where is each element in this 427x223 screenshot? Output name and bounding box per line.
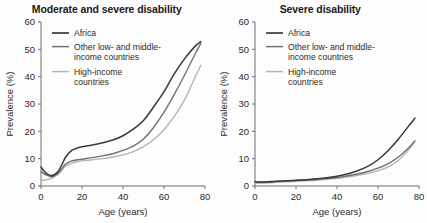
x-tick-label: 20 (290, 191, 301, 202)
x-tick-label: 0 (252, 191, 257, 202)
x-axis-label: Age (years) (98, 206, 147, 217)
x-tick-label: 80 (200, 191, 211, 202)
y-tick-label: 60 (24, 16, 35, 27)
y-tick-label: 60 (238, 16, 249, 27)
legend-label-africa: Africa (288, 28, 310, 38)
legend-label-high_income-line2: countries (288, 77, 323, 87)
y-tick-label: 30 (238, 98, 249, 109)
legend-label-high_income: High-income (288, 67, 336, 77)
legend-label-high_income-line2: countries (74, 77, 109, 87)
x-tick-label: 80 (413, 191, 424, 202)
x-tick-label: 20 (77, 191, 88, 202)
x-tick-label: 0 (38, 191, 43, 202)
series-line-other_lmic (41, 43, 201, 176)
y-tick-label: 0 (30, 180, 35, 191)
legend-label-other_lmic-line2: income countries (74, 52, 139, 62)
legend-label-other_lmic: Other low- and middle- (74, 42, 161, 52)
chart-svg-moderate-and-severe: 0102030405060020406080Age (years)Prevale… (0, 0, 214, 223)
chart-svg-severe: 0102030405060020406080Age (years)Prevale… (214, 0, 427, 223)
x-tick-label: 40 (118, 191, 129, 202)
x-axis-label: Age (years) (312, 206, 361, 217)
y-tick-label: 30 (24, 98, 35, 109)
y-tick-label: 50 (238, 44, 249, 55)
y-tick-label: 40 (238, 71, 249, 82)
legend-label-other_lmic-line2: income countries (288, 52, 353, 62)
y-axis-label: Prevalence (%) (4, 72, 15, 137)
x-tick-label: 60 (159, 191, 170, 202)
chart-panel-moderate-and-severe: Moderate and severe disability 010203040… (0, 0, 214, 223)
y-tick-label: 50 (24, 44, 35, 55)
disability-prevalence-figure: Moderate and severe disability 010203040… (0, 0, 427, 223)
legend-label-other_lmic: Other low- and middle- (288, 42, 375, 52)
series-line-high_income (41, 65, 201, 180)
legend-label-high_income: High-income (74, 67, 122, 77)
x-tick-label: 40 (331, 191, 342, 202)
y-tick-label: 0 (243, 180, 248, 191)
series-line-africa (255, 118, 415, 182)
y-axis-label: Prevalence (%) (218, 72, 229, 137)
y-tick-label: 40 (24, 71, 35, 82)
y-tick-label: 10 (238, 153, 249, 164)
chart-panel-severe: Severe disability 0102030405060020406080… (214, 0, 427, 223)
x-tick-label: 60 (372, 191, 383, 202)
y-tick-label: 20 (238, 126, 249, 137)
y-tick-label: 10 (24, 153, 35, 164)
y-tick-label: 20 (24, 126, 35, 137)
legend-label-africa: Africa (74, 28, 96, 38)
